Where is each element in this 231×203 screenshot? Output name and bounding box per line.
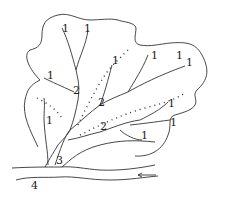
order-label: 3 [56,155,63,166]
stream-order-1 [128,66,185,92]
river-order-4-top [12,165,155,170]
order-label: 1 [84,23,91,34]
basin-boundary [24,14,207,156]
order-label: 1 [168,98,175,109]
order-label: 1 [141,130,148,141]
stream-order-2-a [70,70,79,130]
stream-order-1 [120,130,142,140]
order-label: 1 [62,23,69,34]
order-label: 1 [151,50,158,61]
stream-order-1 [44,98,48,165]
stream-order-1 [140,102,168,120]
divide-dotted-1 [78,50,128,125]
stream-order-1 [76,30,88,70]
order-label: 1 [47,70,54,81]
order-label: 2 [73,85,80,96]
order-label: 4 [31,180,38,191]
order-label: 2 [98,97,105,108]
stream-order-diagram: 1 1 1 1 1 1 1 1 1 1 1 2 2 2 3 4 [0,0,231,203]
basin-drawing [0,0,231,203]
order-label: 2 [100,121,107,132]
order-label: 1 [112,55,119,66]
tributary-lower [62,141,155,167]
order-label: 1 [186,57,193,68]
order-label: 1 [170,117,177,128]
order-label: 1 [176,50,183,61]
order-label: 1 [46,115,53,126]
